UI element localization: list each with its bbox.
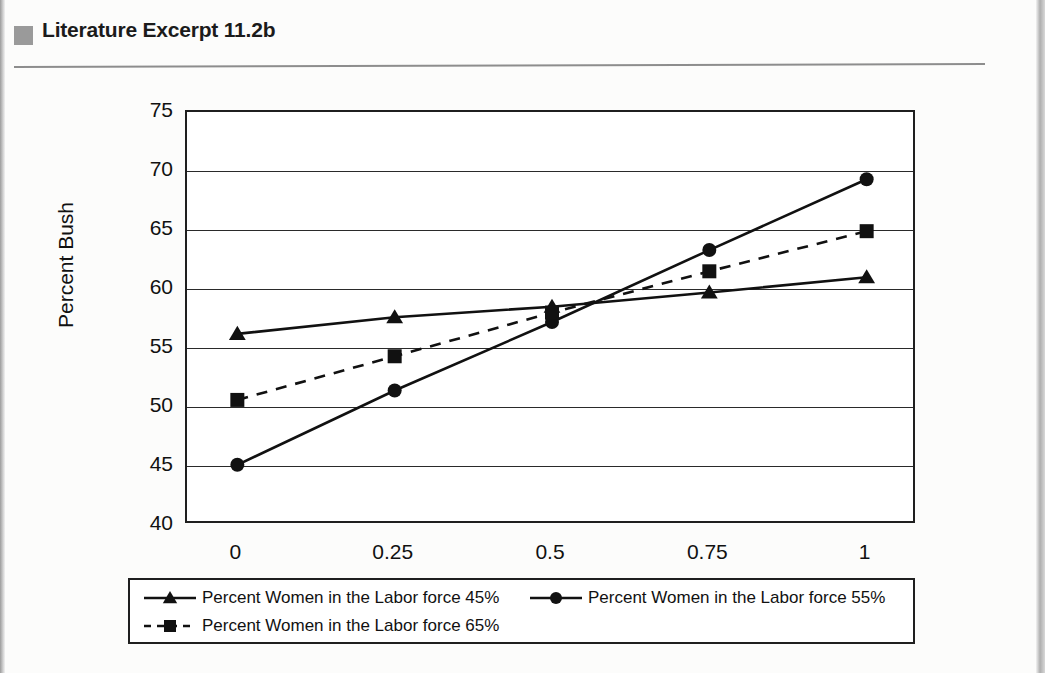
plot-area [185,110,915,523]
x-axis-tick-label: 0.75 [662,541,752,562]
legend-marker-triangle [142,588,198,608]
x-axis-tick-label: 0.5 [505,541,595,562]
y-axis-label: Percent Bush [54,175,78,355]
legend-item[interactable]: Percent Women in the Labor force 65% [142,613,499,639]
square-bullet-icon [14,26,33,45]
legend-label: Percent Women in the Labor force 65% [202,616,499,636]
y-axis-tick-label: 60 [127,276,173,297]
legend-label: Percent Women in the Labor force 55% [588,588,885,608]
legend-item[interactable]: Percent Women in the Labor force 45% [142,585,499,611]
data-point-circle [230,458,244,472]
series-1 [229,269,875,340]
page-title: Literature Excerpt 11.2b [42,18,275,42]
y-axis-tick-label: 50 [127,394,173,415]
series-2 [230,172,873,472]
x-axis-tick-label: 0 [190,541,280,562]
y-axis-tick-label: 45 [127,453,173,474]
data-point-circle [388,383,402,397]
data-point-circle [702,243,716,257]
series-layer [187,112,917,525]
data-point-square [388,349,402,363]
legend-label: Percent Women in the Labor force 45% [202,588,499,608]
y-axis-tick-label: 65 [127,217,173,238]
y-axis-tick-label: 75 [127,99,173,120]
data-point-square [545,306,559,320]
x-axis-tick-label: 0.25 [348,541,438,562]
series-3 [230,224,873,407]
chart-legend: Percent Women in the Labor force 45%Perc… [128,578,915,644]
data-point-square [702,264,716,278]
y-axis-tick-label: 40 [127,512,173,533]
y-axis-tick-label: 55 [127,335,173,356]
y-axis-tick-label: 70 [127,158,173,179]
data-point-circle [860,172,874,186]
data-point-triangle [858,269,875,283]
data-point-square [860,224,874,238]
x-axis-tick-label: 1 [820,541,910,562]
excerpt-header: Literature Excerpt 11.2b [14,18,994,68]
legend-marker-square [142,616,198,636]
data-point-square [230,393,244,407]
legend-item[interactable]: Percent Women in the Labor force 55% [528,585,885,611]
legend-marker-circle [528,588,584,608]
line-chart: Percent Bush 4045505560657075 00.250.50.… [0,75,1040,665]
